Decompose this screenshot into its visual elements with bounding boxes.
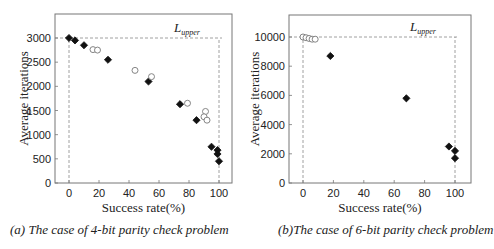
open-circle-marker bbox=[204, 117, 210, 123]
x-tick-label: 40 bbox=[123, 187, 135, 199]
plot-frame bbox=[55, 14, 232, 183]
filled-diamond-marker bbox=[403, 95, 410, 102]
x-tick-label: 60 bbox=[388, 187, 400, 199]
x-tick-label: 20 bbox=[327, 187, 339, 199]
filled-diamond-marker bbox=[451, 147, 458, 154]
filled-diamond-marker bbox=[176, 101, 183, 108]
filled-diamond-marker bbox=[215, 158, 222, 165]
open-circle-marker bbox=[149, 74, 155, 80]
chart-a-plot: Lupper0500100015002000250030000204060801… bbox=[0, 0, 245, 215]
l-upper-label: Lupper bbox=[173, 20, 201, 37]
x-tick-label: 80 bbox=[418, 187, 430, 199]
filled-diamond-marker bbox=[445, 143, 452, 150]
y-tick-label: 8000 bbox=[261, 60, 285, 72]
y-tick-label: 0 bbox=[45, 177, 51, 189]
chart-b-plot: Lupper0200040006000800010000020406080100… bbox=[245, 0, 494, 215]
chart-b: Lupper0200040006000800010000020406080100… bbox=[245, 0, 494, 215]
chart-a: Lupper0500100015002000250030000204060801… bbox=[0, 0, 245, 215]
caption-b: (b)The case of 6-bit parity check proble… bbox=[278, 222, 493, 238]
x-tick-label: 100 bbox=[446, 187, 464, 199]
x-tick-label: 60 bbox=[153, 187, 165, 199]
open-circle-marker bbox=[185, 100, 191, 106]
y-tick-label: 4000 bbox=[261, 119, 285, 131]
filled-diamond-marker bbox=[208, 143, 215, 150]
filled-diamond-marker bbox=[193, 117, 200, 124]
open-circle-marker bbox=[95, 47, 101, 53]
filled-diamond-marker bbox=[327, 52, 334, 59]
filled-diamond-marker bbox=[80, 42, 87, 49]
x-axis-label: Success rate(%) bbox=[338, 200, 421, 215]
y-tick-label: 500 bbox=[33, 153, 51, 165]
y-tick-label: 6000 bbox=[261, 89, 285, 101]
y-axis-label: Average iterations bbox=[247, 52, 262, 147]
y-tick-label: 2000 bbox=[261, 148, 285, 160]
filled-diamond-marker bbox=[104, 56, 111, 63]
y-tick-label: 10000 bbox=[254, 31, 285, 43]
x-tick-label: 0 bbox=[300, 187, 306, 199]
caption-a: (a) The case of 4-bit parity check probl… bbox=[10, 222, 229, 238]
x-tick-label: 20 bbox=[93, 187, 105, 199]
open-circle-marker bbox=[312, 36, 318, 42]
l-upper-label: Lupper bbox=[409, 19, 437, 36]
open-circle-marker bbox=[132, 67, 138, 73]
y-tick-label: 0 bbox=[279, 177, 285, 189]
x-tick-label: 100 bbox=[210, 187, 228, 199]
x-tick-label: 40 bbox=[358, 187, 370, 199]
x-axis-label: Success rate(%) bbox=[102, 200, 185, 215]
x-tick-label: 0 bbox=[66, 187, 72, 199]
filled-diamond-marker bbox=[451, 155, 458, 162]
y-tick-label: 3000 bbox=[27, 32, 51, 44]
x-tick-label: 80 bbox=[183, 187, 195, 199]
y-axis-label: Average iterations bbox=[16, 51, 31, 146]
